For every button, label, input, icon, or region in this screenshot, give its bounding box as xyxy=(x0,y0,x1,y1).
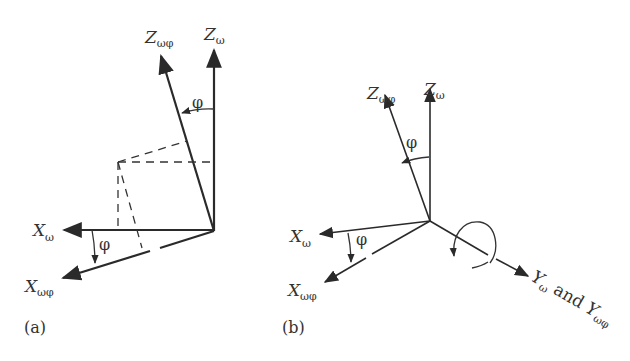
panel-a-label: (a) xyxy=(24,318,46,337)
label-x-omega: Xω xyxy=(288,226,311,250)
x-omega-phi-axis-segment xyxy=(372,221,430,254)
x-omega-axis xyxy=(320,221,430,234)
angle-arc-bottom xyxy=(92,230,95,263)
angle-phi-top: φ xyxy=(192,93,203,112)
label-x-omega-phi: Xωφ xyxy=(23,276,54,299)
rotation-arrow-icon xyxy=(454,222,496,263)
coordinate-rotation-diagram: Zωφ Zω Xω Xωφ φ φ (a) Zωφ Zω Xω Xωφ φ φ xyxy=(0,0,630,361)
label-z-omega-phi: Zωφ xyxy=(144,27,174,50)
angle-phi-top: φ xyxy=(406,133,417,152)
angle-phi-bottom: φ xyxy=(356,230,367,249)
y-axis-segment xyxy=(430,221,488,255)
z-omega-phi-axis xyxy=(161,56,214,231)
projection-dash xyxy=(118,162,142,248)
angle-phi-bottom: φ xyxy=(99,235,110,254)
rotation-arrow-tail xyxy=(472,262,488,268)
y-axis xyxy=(496,259,528,276)
label-z-omega-phi: Zωφ xyxy=(366,83,396,106)
x-omega-phi-axis-segment xyxy=(160,231,214,248)
label-x-omega: Xω xyxy=(31,220,54,244)
label-z-omega: Zω xyxy=(203,24,225,47)
panel-a: Zωφ Zω Xω Xωφ φ φ (a) xyxy=(23,24,225,337)
label-y-omega-and-y-omega-phi: Yω and Yωφ xyxy=(527,266,617,332)
label-x-omega-phi: Xωφ xyxy=(286,280,317,303)
panel-b: Zωφ Zω Xω Xωφ φ φ Yω and Yωφ (b) xyxy=(282,79,617,337)
x-omega-phi-axis xyxy=(325,258,366,282)
projection-dash xyxy=(118,141,187,162)
panel-b-label: (b) xyxy=(282,318,305,337)
label-z-omega: Zω xyxy=(423,79,445,102)
angle-arc-top xyxy=(402,157,429,163)
x-omega-phi-axis xyxy=(63,251,150,278)
angle-arc-bottom xyxy=(348,233,351,262)
